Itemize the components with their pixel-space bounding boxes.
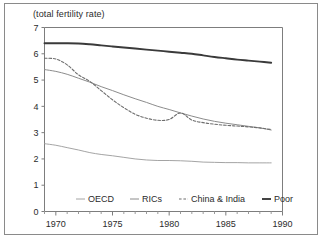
legend-label-rics: RICs: [142, 194, 162, 204]
y-tick-label: 1: [33, 180, 38, 190]
legend-label-china-india: China & India: [191, 194, 245, 204]
chart-figure: (total fertility rate) 01234567 19701975…: [0, 0, 322, 242]
series-line-poor: [45, 43, 272, 62]
legend-label-oecd: OECD: [88, 194, 115, 204]
series-line-china-india: [45, 58, 272, 129]
y-tick-label: 6: [33, 49, 38, 59]
chart-axes: [45, 28, 283, 212]
x-tick-group: 19701975198019851990: [45, 212, 293, 229]
y-tick-label: 4: [33, 102, 38, 112]
series-line-rics: [45, 70, 272, 130]
x-tick-label: 1980: [159, 219, 179, 229]
y-tick-label: 5: [33, 75, 38, 85]
x-tick-label: 1975: [102, 219, 122, 229]
chart-legend: OECDRICsChina & IndiaPoor: [76, 194, 293, 204]
fertility-rate-line-chart: 01234567 19701975198019851990 OECDRICsCh…: [0, 0, 322, 242]
data-series-group: [45, 43, 272, 163]
y-tick-label: 0: [33, 207, 38, 217]
y-tick-label: 7: [33, 23, 38, 33]
x-tick-label: 1990: [272, 219, 292, 229]
x-tick-label: 1970: [46, 219, 66, 229]
series-line-oecd: [45, 144, 272, 163]
y-tick-group: 01234567: [33, 23, 44, 217]
x-tick-label: 1985: [216, 219, 236, 229]
y-tick-label: 2: [33, 154, 38, 164]
legend-label-poor: Poor: [274, 194, 293, 204]
y-tick-label: 3: [33, 128, 38, 138]
